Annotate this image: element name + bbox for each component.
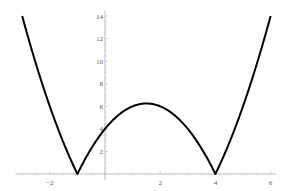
- x-tick-label: 2: [158, 179, 162, 187]
- x-tick-label: 6: [269, 179, 273, 187]
- y-tick-label: 6: [100, 103, 104, 111]
- y-tick-label: 10: [96, 58, 104, 66]
- y-tick-label: 14: [96, 13, 104, 21]
- x-tick-label: 4: [214, 179, 218, 187]
- y-tick-label: 12: [96, 35, 104, 43]
- y-tick-label: 2: [100, 148, 104, 156]
- x-tick-label: −2: [46, 179, 54, 187]
- y-tick-label: 8: [100, 80, 104, 88]
- function-curve: [22, 16, 270, 174]
- function-plot: −22462468101214: [0, 0, 288, 191]
